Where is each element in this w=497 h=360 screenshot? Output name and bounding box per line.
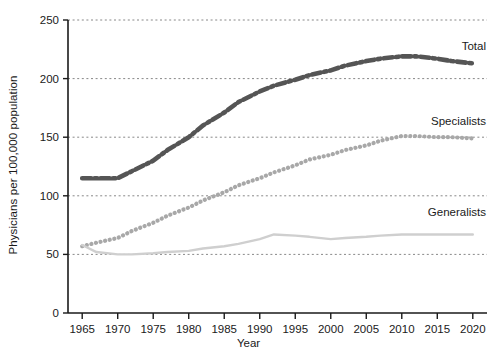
- series-label-group: TotalSpecialistsGeneralists: [428, 40, 486, 218]
- x-tick-label-1975: 1975: [140, 323, 166, 335]
- y-tick-label-200: 200: [40, 73, 59, 85]
- x-tick-label-1985: 1985: [211, 323, 237, 335]
- x-axis-title: Year: [0, 337, 497, 349]
- series-line-generalists: [82, 234, 473, 254]
- y-tick-group: 050100150200250: [40, 14, 68, 319]
- x-tick-label-2000: 2000: [318, 323, 344, 335]
- x-tick-label-1980: 1980: [176, 323, 202, 335]
- series-label-specialists: Specialists: [431, 115, 486, 127]
- y-tick-label-100: 100: [40, 190, 59, 202]
- axis-lines-group: [68, 20, 487, 313]
- data-series-group: [82, 56, 473, 254]
- x-tick-label-2010: 2010: [389, 323, 415, 335]
- y-tick-label-250: 250: [40, 14, 59, 26]
- x-tick-label-2020: 2020: [460, 323, 486, 335]
- x-tick-label-1965: 1965: [69, 323, 95, 335]
- y-tick-label-50: 50: [46, 248, 59, 260]
- y-tick-label-0: 0: [53, 307, 59, 319]
- physicians-line-chart: Physicians per 100,000 population 050100…: [0, 0, 497, 360]
- series-label-total: Total: [462, 40, 486, 52]
- plot-area: 050100150200250 196519701975198019851990…: [0, 0, 497, 360]
- y-tick-label-150: 150: [40, 131, 59, 143]
- series-line-total: [82, 56, 473, 178]
- x-tick-label-2005: 2005: [353, 323, 379, 335]
- x-tick-label-1995: 1995: [282, 323, 308, 335]
- series-label-generalists: Generalists: [428, 206, 486, 218]
- series-line-specialists: [82, 136, 473, 246]
- x-tick-label-1970: 1970: [105, 323, 131, 335]
- x-tick-label-1990: 1990: [247, 323, 273, 335]
- x-tick-label-2015: 2015: [424, 323, 450, 335]
- x-tick-group: 1965197019751980198519901995200020052010…: [69, 313, 485, 335]
